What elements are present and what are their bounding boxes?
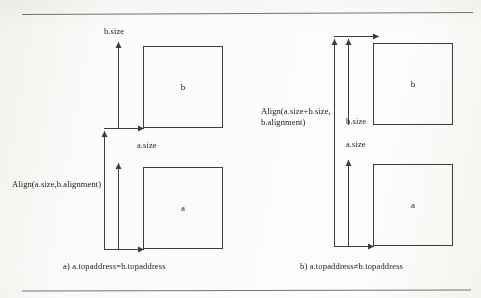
align-top-tick-head xyxy=(373,34,379,40)
a-size-arrow-head xyxy=(116,163,122,169)
b-size-arrow-head xyxy=(346,39,352,45)
b-size-arrow-head xyxy=(116,42,122,48)
align-label-line-2: b.alignment) xyxy=(261,117,305,127)
memory-box-b: b xyxy=(373,43,453,125)
a-size-arrow-shaft xyxy=(348,160,349,246)
a-size-baseline-head xyxy=(138,247,144,253)
a-size-label: a.size xyxy=(137,140,157,150)
figure-canvas: b a b.size a.size Align(a.size,b.alignme… xyxy=(0,0,481,298)
memory-box-b: b xyxy=(143,46,223,128)
diagram-panel-b: b a b.size a.size Align(a.size+b.size, b… xyxy=(240,0,480,298)
a-size-baseline-head xyxy=(368,244,374,250)
b-size-label: b.size xyxy=(346,116,366,126)
align-arrow-shaft xyxy=(334,39,335,246)
memory-box-a-label: a xyxy=(144,203,222,213)
align-label: Align(a.size,b.alignment) xyxy=(12,179,101,190)
b-size-label: b.size xyxy=(104,26,124,36)
a-size-arrow-head xyxy=(346,160,352,166)
a-size-arrow-shaft xyxy=(118,163,119,249)
memory-box-a: a xyxy=(373,164,453,246)
memory-box-b-label: b xyxy=(374,79,452,89)
memory-box-b-label: b xyxy=(144,82,222,92)
align-arrow-head xyxy=(332,39,338,45)
memory-box-a: a xyxy=(143,167,223,249)
diagram-panel-a: b a b.size a.size Align(a.size,b.alignme… xyxy=(0,0,240,298)
align-label-line-1: Align(a.size+b.size, xyxy=(261,106,331,116)
b-size-baseline-head xyxy=(138,126,144,132)
align-label: Align(a.size+b.size, b.alignment) xyxy=(261,106,331,127)
align-arrow-shaft xyxy=(104,131,105,249)
a-size-label: a.size xyxy=(346,139,366,149)
b-size-arrow-shaft xyxy=(348,39,349,125)
b-size-arrow-shaft xyxy=(118,42,119,128)
panel-a-caption: a) a.topaddress=b.topaddress xyxy=(63,261,166,271)
memory-box-a-label: a xyxy=(374,200,452,210)
align-arrow-head xyxy=(102,131,108,137)
panel-b-caption: b) a.topaddress≠b.topaddress xyxy=(300,261,403,271)
